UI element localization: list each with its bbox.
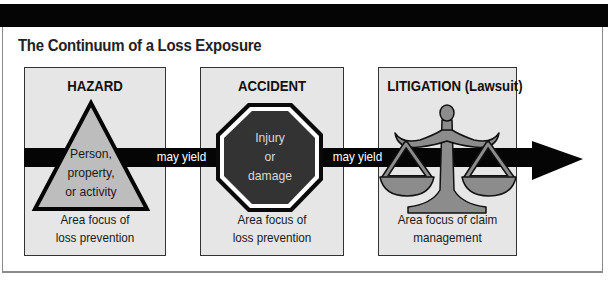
connector-label: may yield	[157, 149, 206, 164]
connector-label: may yield	[333, 149, 382, 164]
shape-text-line: Person,	[51, 144, 132, 163]
shape-text-line: Injury	[230, 128, 311, 147]
hazard-shape-text: Person, property, or activity	[51, 144, 132, 201]
shape-text-line: or activity	[51, 182, 132, 201]
accident-shape-text: Injury or damage	[230, 128, 311, 185]
shape-text-line: damage	[230, 166, 311, 185]
shape-text-line: or	[230, 147, 311, 166]
shape-text-line: property,	[51, 163, 132, 182]
